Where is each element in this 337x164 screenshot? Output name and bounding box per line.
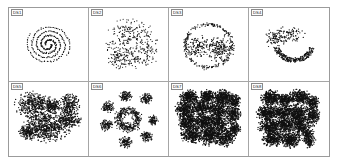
- panel-label-ds8: DS8: [251, 83, 263, 90]
- dataset-figure-grid: DS1 DS2 DS3 DS4 DS5 DS6 DS7 DS8: [8, 7, 330, 157]
- panel-label-ds5: DS5: [11, 83, 23, 90]
- panel-label-ds1: DS1: [11, 9, 23, 16]
- dataset-panel: DS7: [169, 82, 249, 156]
- dataset-panel: DS4: [249, 8, 329, 82]
- scatter-plot-ds4: [249, 8, 329, 81]
- panel-label-ds3: DS3: [171, 9, 183, 16]
- scatter-plot-ds1: [9, 8, 88, 81]
- scatter-plot-ds3: [169, 8, 248, 81]
- panel-label-ds2: DS2: [91, 9, 103, 16]
- scatter-plot-ds2: [89, 8, 168, 81]
- dataset-panel: DS2: [89, 8, 169, 82]
- dataset-panel: DS6: [89, 82, 169, 156]
- dataset-panel: DS1: [9, 8, 89, 82]
- panel-label-ds6: DS6: [91, 83, 103, 90]
- scatter-plot-ds5: [9, 82, 88, 156]
- scatter-plot-ds8: [249, 82, 329, 156]
- dataset-panel: DS5: [9, 82, 89, 156]
- scatter-plot-ds6: [89, 82, 168, 156]
- dataset-panel: DS8: [249, 82, 329, 156]
- scatter-plot-ds7: [169, 82, 248, 156]
- dataset-panel: DS3: [169, 8, 249, 82]
- panel-label-ds7: DS7: [171, 83, 183, 90]
- panel-label-ds4: DS4: [251, 9, 263, 16]
